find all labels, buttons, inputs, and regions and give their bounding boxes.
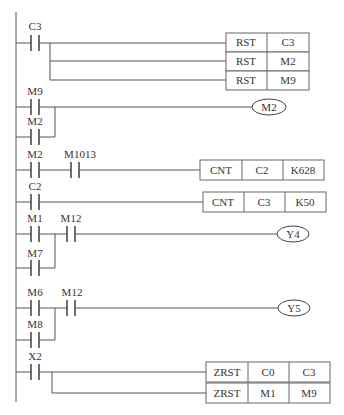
- instruction-operand: M9: [301, 387, 317, 399]
- coil-icon: M2: [252, 99, 286, 115]
- coil-label: Y5: [287, 302, 301, 314]
- contact-no-icon: [31, 129, 39, 145]
- contact-label: C3: [29, 20, 42, 32]
- ladder-diagram: C3 RST C3 RST M2 RST M9 M9: [0, 0, 344, 415]
- contact-label: M12: [62, 286, 83, 298]
- contact-label: M7: [27, 247, 43, 259]
- instruction-operand: C3: [258, 196, 271, 208]
- instruction-opcode: RST: [236, 74, 256, 86]
- rung-1: C3 RST C3 RST M2 RST M9: [16, 20, 309, 90]
- contact-label: M6: [27, 286, 43, 298]
- instruction-box: RST M2: [226, 52, 309, 71]
- contact-no-icon: [71, 162, 79, 178]
- contact-no-icon: [31, 364, 39, 380]
- contact-no-icon: [31, 162, 39, 178]
- contact-label: M8: [27, 318, 43, 330]
- rung-4: C2 CNT C3 K50: [16, 180, 326, 212]
- instruction-operand: C0: [262, 366, 275, 378]
- contact-label: M9: [27, 85, 43, 97]
- contact-no-icon: [31, 35, 39, 51]
- instruction-opcode: RST: [236, 36, 256, 48]
- contact-label: M2: [27, 148, 42, 160]
- contact-label: C2: [29, 180, 42, 192]
- instruction-box: RST M9: [226, 71, 309, 90]
- contact-label: M1013: [64, 148, 96, 160]
- instruction-box: ZRST C0 C3: [206, 362, 330, 382]
- contact-no-icon: [31, 99, 39, 115]
- instruction-box: CNT C2 K628: [200, 160, 324, 180]
- instruction-box: CNT C3 K50: [203, 192, 326, 212]
- instruction-operand: C2: [256, 164, 269, 176]
- instruction-operand: C3: [303, 366, 316, 378]
- contact-no-icon: [31, 226, 39, 242]
- contact-label: M12: [61, 212, 82, 224]
- instruction-opcode: RST: [236, 55, 256, 67]
- instruction-operand: K50: [296, 196, 315, 208]
- rung-5: M1 M12 M7 Y4: [16, 212, 309, 276]
- rung-7: X2 ZRST C0 C3 ZRST M1 M9: [16, 350, 330, 403]
- coil-label: M2: [261, 101, 276, 113]
- instruction-operand: K628: [291, 164, 316, 176]
- instruction-opcode: ZRST: [214, 387, 241, 399]
- coil-icon: Y5: [278, 300, 310, 316]
- instruction-operand: M9: [280, 74, 296, 86]
- instruction-operand: M2: [280, 55, 295, 67]
- contact-no-icon: [31, 300, 39, 316]
- contact-no-icon: [31, 260, 39, 276]
- rung-6: M6 M12 M8 Y5: [16, 286, 310, 348]
- contact-label: M1: [27, 212, 42, 224]
- rung-3: M2 M1013 CNT C2 K628: [16, 148, 324, 180]
- coil-icon: Y4: [277, 226, 309, 242]
- contact-label: M2: [27, 115, 42, 127]
- rung-2: M9 M2 M2: [16, 85, 286, 145]
- instruction-box: RST C3: [226, 33, 309, 52]
- instruction-operand: C3: [282, 36, 295, 48]
- contact-label: X2: [28, 350, 41, 362]
- instruction-operand: M1: [260, 387, 275, 399]
- instruction-opcode: ZRST: [214, 366, 241, 378]
- instruction-opcode: CNT: [212, 196, 234, 208]
- contact-no-icon: [67, 300, 75, 316]
- instruction-box: ZRST M1 M9: [206, 383, 330, 403]
- instruction-opcode: CNT: [210, 164, 232, 176]
- contact-no-icon: [31, 332, 39, 348]
- contact-no-icon: [67, 226, 75, 242]
- contact-no-icon: [31, 194, 39, 210]
- coil-label: Y4: [286, 228, 300, 240]
